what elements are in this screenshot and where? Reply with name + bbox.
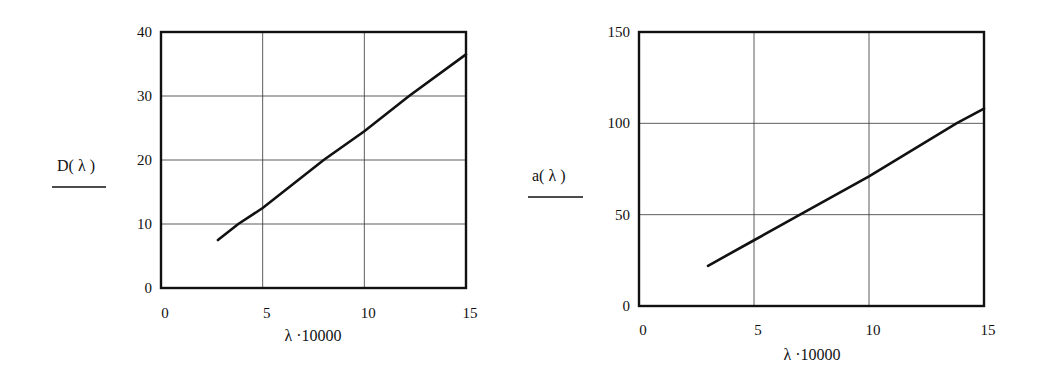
y-tick-label: 50 bbox=[615, 207, 630, 223]
series-line-d bbox=[218, 54, 466, 240]
x-tick-label: 15 bbox=[981, 322, 996, 338]
gridlines bbox=[161, 32, 466, 288]
y-tick-label: 40 bbox=[137, 24, 152, 40]
x-tick-label: 0 bbox=[639, 322, 647, 338]
x-tick-label: 10 bbox=[866, 322, 881, 338]
chart-d-lambda: D( λ ) 010203040 051015 λ ·10000 bbox=[0, 0, 520, 381]
y-axis-label-group: D( λ ) bbox=[52, 157, 106, 187]
y-tick-label: 10 bbox=[137, 216, 152, 232]
x-axis-label: λ ·10000 bbox=[783, 346, 840, 363]
x-tick-labels: 051015 bbox=[639, 322, 995, 338]
y-tick-label: 150 bbox=[608, 24, 631, 40]
x-tick-label: 0 bbox=[161, 305, 169, 321]
x-axis-label: λ ·10000 bbox=[284, 327, 341, 344]
y-axis-label: a( λ ) bbox=[532, 167, 566, 185]
series-line-a bbox=[708, 109, 984, 266]
y-tick-label: 20 bbox=[137, 152, 152, 168]
y-tick-labels: 010203040 bbox=[137, 24, 152, 296]
plot-frame bbox=[639, 32, 984, 306]
chart-a-lambda: a( λ ) 050100150 051015 λ ·10000 bbox=[520, 0, 1044, 381]
y-axis-label: D( λ ) bbox=[57, 157, 95, 175]
y-tick-label: 0 bbox=[145, 280, 153, 296]
x-tick-label: 10 bbox=[361, 305, 376, 321]
y-tick-label: 30 bbox=[137, 88, 152, 104]
x-tick-labels: 051015 bbox=[161, 305, 477, 321]
y-tick-labels: 050100150 bbox=[608, 24, 631, 314]
y-tick-label: 100 bbox=[608, 115, 631, 131]
x-tick-label: 5 bbox=[754, 322, 762, 338]
x-tick-label: 5 bbox=[263, 305, 271, 321]
y-tick-label: 0 bbox=[623, 298, 631, 314]
y-axis-label-group: a( λ ) bbox=[528, 167, 583, 197]
x-tick-label: 15 bbox=[463, 305, 478, 321]
gridlines bbox=[639, 32, 984, 306]
